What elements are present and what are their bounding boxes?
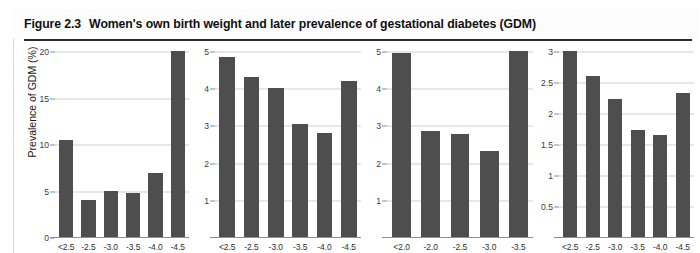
plot-area-2 [387,52,533,238]
x-tick-label: -4.0 [312,242,336,252]
x-tick-label: -2.5 [582,242,605,252]
bar-slot [604,52,627,237]
x-tick-label: -3.0 [264,242,288,252]
y-tick-label: 5 [44,187,49,197]
bar [480,151,499,237]
y-tick-label: 20 [39,47,49,57]
bar-slot [100,52,122,237]
x-tick-label: -2.0 [416,242,445,252]
bar-slot [475,52,504,237]
bar-slot [627,52,650,237]
bar [676,93,690,237]
x-tick-label: -2.5 [239,242,263,252]
x-tick-label: -3.5 [504,242,533,252]
bar [148,173,162,237]
x-axis-labels-2: <2.0-2.0-2.5-3.0-3.5 [387,242,533,252]
bar [421,131,440,237]
y-tick-label: 4 [376,84,381,94]
bar [586,76,600,237]
bar [392,53,411,237]
y-tick-label: 15 [39,94,49,104]
bar [653,135,667,237]
x-tick-label: -2.5 [445,242,474,252]
x-tick-label: -3.0 [475,242,504,252]
bar-slot [672,52,695,237]
bar-slot [167,52,189,237]
x-tick-label: -4.0 [144,242,166,252]
bar [509,51,528,237]
bar [104,191,118,238]
y-tick-label: 1 [548,171,553,181]
bar-slot [215,52,239,237]
x-tick-label: -3.0 [100,242,122,252]
bar [341,81,357,237]
x-axis-labels-3: <2.5-2.5-3.0-3.5-4.0-4.5 [559,242,694,252]
y-tick-label: 0.5 [541,202,553,212]
bar [244,77,260,237]
bar [268,88,284,237]
y-tick-label: 1 [204,196,209,206]
y-axis-3: 0.511.522.53 [533,52,559,238]
y-tick-label: 2.5 [541,78,553,88]
x-tick-label: -3.0 [604,242,627,252]
x-tick-label: -3.5 [627,242,650,252]
x-tick-label: <2.5 [55,242,77,252]
plot-area-0 [55,52,189,238]
chart-panel-2: 12345<2.0-2.0-2.5-3.0-3.5 [361,52,533,253]
bar-slot [445,52,474,237]
y-tick-label: 2 [376,159,381,169]
bar-group-3 [559,52,694,237]
x-tick-label: -4.5 [167,242,189,252]
x-axis-line [210,237,361,238]
y-tick-label: 1 [376,196,381,206]
x-axis-line [554,237,694,238]
bar-slot [649,52,672,237]
x-tick-label: -4.5 [672,242,695,252]
y-tick-label: 4 [204,84,209,94]
bar [126,193,140,237]
figure-title-bar: Figure 2.3Women's own birth weight and l… [13,9,699,39]
y-tick-label: 10 [39,140,49,150]
bar-slot [337,52,361,237]
x-axis-line [382,237,533,238]
plot-area-1 [215,52,361,238]
y-tick-label: 5 [204,47,209,57]
bar-slot [504,52,533,237]
bar [219,57,235,237]
figure-caption: Women's own birth weight and later preva… [89,17,536,31]
bar-group-2 [387,52,533,237]
bar [451,134,470,237]
x-axis-labels-0: <2.5-2.5-3.0-3.5-4.0-4.5 [55,242,189,252]
figure-container: Figure 2.3Women's own birth weight and l… [0,0,700,253]
y-tick-label: 2 [204,159,209,169]
bar-slot [387,52,416,237]
bar-slot [416,52,445,237]
bar-slot [264,52,288,237]
bar-slot [288,52,312,237]
chart-panel-0: 05101520<2.5-2.5-3.0-3.5-4.0-4.5 [29,52,189,253]
x-tick-label: -2.5 [77,242,99,252]
y-tick-label: 5 [376,47,381,57]
bar [81,200,95,237]
bar-group-0 [55,52,189,237]
bar-slot [582,52,605,237]
bar-slot [559,52,582,237]
x-tick-label: <2.0 [387,242,416,252]
bar-slot [77,52,99,237]
y-axis-0: 05101520 [29,52,55,238]
bar [292,124,308,237]
y-tick-label: 0 [44,233,49,243]
x-tick-label: -4.5 [337,242,361,252]
y-axis-1: 12345 [189,52,215,238]
x-tick-label: -3.5 [122,242,144,252]
bar-slot [144,52,166,237]
x-tick-label: <2.5 [559,242,582,252]
bar-slot [312,52,336,237]
panel-row: 05101520<2.5-2.5-3.0-3.5-4.0-4.512345<2.… [29,52,694,253]
bar-slot [122,52,144,237]
y-tick-label: 3 [204,121,209,131]
chart-panel-1: 12345<2.5-2.5-3.0-3.5-4.0-4.5 [189,52,361,253]
x-tick-label: -3.5 [288,242,312,252]
bar [171,51,185,237]
x-axis-labels-1: <2.5-2.5-3.0-3.5-4.0-4.5 [215,242,361,252]
